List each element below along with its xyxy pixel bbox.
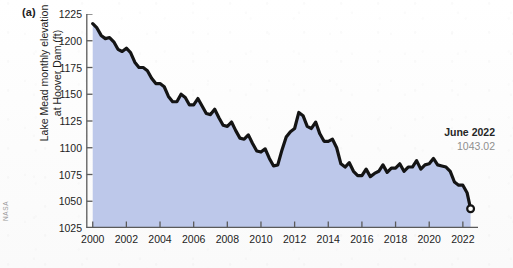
y-tick-label: 1225 [36, 8, 82, 20]
y-tick-label: 1150 [36, 88, 82, 100]
endpoint-annotation: June 2022 1043.02 [444, 126, 495, 153]
x-tick-label: 2022 [451, 233, 474, 245]
endpoint-marker [467, 205, 474, 212]
y-tick-label: 1175 [36, 62, 82, 74]
x-tick-label: 2010 [249, 233, 272, 245]
x-tick-label: 2006 [182, 233, 205, 245]
area-fill [93, 24, 471, 228]
annotation-title: June 2022 [444, 126, 495, 140]
y-tick-label: 1100 [36, 142, 82, 154]
y-tick-label: 1050 [36, 195, 82, 207]
x-tick-label: 2020 [418, 233, 441, 245]
lake-mead-elevation-area-chart [86, 14, 478, 228]
y-axis-ticks [87, 14, 93, 228]
plot-area [86, 14, 478, 228]
x-tick-label: 2008 [216, 233, 239, 245]
y-axis-tick-labels: 102510501075110011251150117512001225 [30, 0, 82, 268]
x-tick-label: 2018 [384, 233, 407, 245]
x-tick-label: 2002 [115, 233, 138, 245]
x-tick-label: 2016 [350, 233, 373, 245]
y-tick-label: 1200 [36, 35, 82, 47]
y-tick-label: 1125 [36, 115, 82, 127]
image-credit: NASA [2, 175, 9, 221]
x-axis-tick-labels: 2000200220042006200820102012201420162018… [0, 233, 513, 251]
x-tick-label: 2000 [81, 233, 104, 245]
x-tick-label: 2012 [283, 233, 306, 245]
annotation-value: 1043.02 [444, 140, 495, 154]
x-tick-label: 2014 [317, 233, 340, 245]
y-tick-label: 1075 [36, 169, 82, 181]
figure-panel: (a) NASA Lake Mead monthly elevation at … [0, 0, 513, 268]
x-tick-label: 2004 [148, 233, 171, 245]
